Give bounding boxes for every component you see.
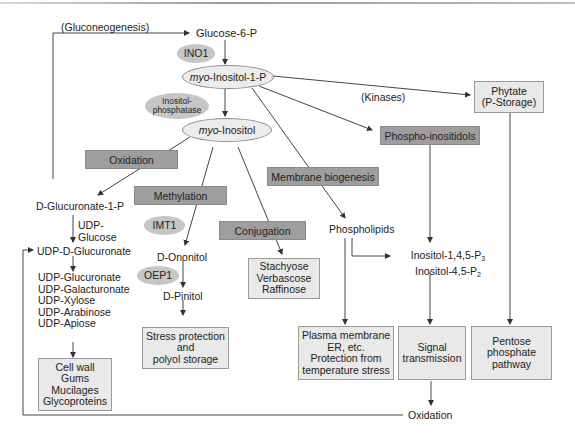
d-ononitol: D-Ononitol (157, 251, 207, 263)
udp-glucose-cofactor: UDP- Glucose (78, 219, 117, 243)
outcome-phytate: Phytate (P-Storage) (474, 81, 544, 113)
glucose-6-p: Glucose-6-P (196, 27, 257, 39)
udp-glucose-line-2: Glucose (78, 231, 117, 243)
enzyme-inositol-phosphatase: Inositol- phosphatase (145, 93, 209, 119)
outcome-raffinose-family: Stachyose Verbascose Raffinose (248, 258, 320, 299)
udp-sugar-item: UDP-Apiose (38, 318, 130, 330)
process-oxidation: Oxidation (85, 150, 178, 169)
outcome-cell-wall: Cell wall Gums Mucilages Glycoproteins (38, 358, 112, 411)
myo-prefix: myo (199, 124, 219, 136)
kinases-label: (Kinases) (361, 91, 405, 103)
process-conjugation: Conjugation (219, 221, 306, 240)
outcome-stress-protection: Stress protection and polyol storage (142, 327, 229, 369)
oxidation-endpoint: Oxidation (408, 409, 452, 421)
d-pinitol: D-Pinitol (163, 290, 203, 302)
udp-sugar-item: UDP-Glucuronate (38, 272, 130, 284)
udp-glucose-line-1: UDP- (78, 219, 117, 231)
enzyme-imt1: IMT1 (144, 216, 185, 235)
udp-sugar-list: UDP-Glucuronate UDP-Galacturonate UDP-Xy… (38, 272, 130, 330)
myo-inositol-1-p-suffix: -Inositol-1-P (210, 71, 267, 83)
d-glucuronate-1-p: D-Glucuronate-1-P (36, 200, 124, 212)
process-methylation: Methylation (134, 186, 227, 205)
udp-d-glucuronate: UDP-D-Glucuronate (37, 245, 131, 257)
myo-inositol-1-p-node: myo-Inositol-1-P (182, 65, 274, 89)
process-membrane-biogenesis: Membrane biogenesis (267, 167, 379, 186)
enzyme-oep1: OEP1 (137, 266, 179, 285)
myo-prefix: myo (190, 71, 210, 83)
inositol-bisphosphate: Inositol-4,5-P2 (392, 265, 504, 281)
process-phospho-inositidols: Phospho-inositidols (380, 126, 480, 145)
gluconeogenesis-label: (Gluconeogenesis) (61, 21, 149, 33)
outcome-plasma-membrane: Plasma membrane ER, etc. Protection from… (298, 326, 394, 380)
enzyme-ino1: INO1 (177, 44, 215, 63)
inositol-phosphates: Inositol-1,4,5-P3 Inositol-4,5-P2 (392, 249, 504, 281)
outcome-pentose-phosphate: Pentose phosphate pathway (471, 326, 552, 380)
phospholipids: Phospholipids (329, 223, 394, 235)
myo-inositol-node: myo-Inositol (182, 118, 272, 142)
inositol-trisphosphate: Inositol-1,4,5-P3 (392, 249, 504, 265)
outcome-signal-transmission: Signal transmission (398, 326, 466, 380)
myo-inositol-suffix: -Inositol (219, 124, 256, 136)
